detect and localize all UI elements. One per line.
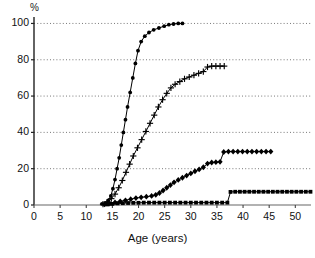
- series-series-1: [100, 22, 184, 206]
- data-point-square: [220, 201, 224, 205]
- data-point-circle: [111, 187, 115, 191]
- y-tick-label: 20: [0, 162, 29, 174]
- data-point-square: [105, 203, 109, 207]
- data-point-square: [210, 201, 214, 205]
- data-point-circle: [121, 130, 125, 134]
- data-point-circle: [143, 34, 147, 38]
- data-point-square: [178, 201, 182, 205]
- data-point-square: [184, 201, 188, 205]
- data-point-circle: [162, 24, 166, 28]
- x-tick-label: 10: [74, 210, 98, 222]
- data-point-diamond: [259, 149, 264, 155]
- data-point-circle: [119, 143, 123, 147]
- series-series-3: [102, 149, 273, 207]
- series-line: [102, 23, 182, 203]
- y-tick-label: 80: [0, 53, 29, 65]
- data-point-diamond: [133, 195, 138, 201]
- data-point-circle: [176, 22, 180, 26]
- data-point-square: [199, 201, 203, 205]
- data-point-diamond: [139, 194, 144, 200]
- data-point-square: [247, 190, 251, 194]
- data-point-square: [147, 201, 151, 205]
- data-point-square: [229, 190, 233, 194]
- data-point-square: [271, 190, 275, 194]
- x-tick-label: 40: [231, 210, 255, 222]
- data-point-square: [173, 201, 177, 205]
- data-point-square: [142, 201, 146, 205]
- data-point-circle: [172, 22, 176, 26]
- data-point-diamond: [231, 149, 236, 155]
- data-point-diamond: [217, 159, 222, 165]
- data-point-diamond: [254, 149, 259, 155]
- data-point-square: [243, 190, 247, 194]
- x-tick-label: 35: [205, 210, 229, 222]
- data-point-square: [238, 190, 242, 194]
- x-tick-label: 5: [48, 210, 72, 222]
- data-point-circle: [147, 31, 151, 35]
- data-point-circle: [131, 76, 135, 80]
- series-line: [105, 152, 271, 205]
- y-tick-label: 100: [0, 16, 29, 28]
- data-point-diamond: [245, 149, 250, 155]
- data-point-circle: [136, 49, 140, 53]
- data-point-diamond: [144, 194, 149, 200]
- data-point-diamond: [221, 149, 226, 155]
- x-tick-label: 50: [283, 210, 307, 222]
- data-point-square: [163, 201, 167, 205]
- data-point-square: [152, 201, 156, 205]
- data-point-square: [276, 190, 280, 194]
- data-point-square: [137, 201, 141, 205]
- data-point-square: [309, 190, 313, 194]
- data-point-square: [290, 190, 294, 194]
- data-point-square: [257, 190, 261, 194]
- data-point-square: [205, 201, 209, 205]
- data-point-square: [233, 190, 237, 194]
- data-point-circle: [152, 28, 156, 32]
- data-point-circle: [113, 178, 117, 182]
- series-series-2: [100, 63, 227, 207]
- x-tick-label: 0: [22, 210, 46, 222]
- data-point-square: [294, 190, 298, 194]
- data-point-square: [126, 201, 130, 205]
- x-tick-label: 15: [100, 210, 124, 222]
- data-point-square: [280, 190, 284, 194]
- data-point-square: [194, 201, 198, 205]
- data-point-diamond: [149, 193, 154, 199]
- data-point-square: [215, 201, 219, 205]
- data-point-square: [285, 190, 289, 194]
- x-axis-title: Age (years): [0, 232, 315, 244]
- data-point-circle: [181, 22, 185, 26]
- series-line: [103, 66, 224, 204]
- x-tick-label: 45: [257, 210, 281, 222]
- x-tick-label: 20: [127, 210, 151, 222]
- data-point-square: [266, 190, 270, 194]
- x-tick-label: 25: [153, 210, 177, 222]
- data-point-diamond: [268, 149, 273, 155]
- data-point-square: [252, 190, 256, 194]
- data-point-square: [262, 190, 266, 194]
- data-point-square: [225, 201, 229, 205]
- data-point-circle: [157, 26, 161, 30]
- data-point-square: [189, 201, 193, 205]
- y-tick-label: 40: [0, 125, 29, 137]
- data-point-square: [121, 201, 125, 205]
- data-point-square: [116, 201, 120, 205]
- data-point-diamond: [235, 149, 240, 155]
- data-point-circle: [128, 91, 132, 95]
- data-point-circle: [133, 61, 137, 65]
- data-point-circle: [124, 118, 128, 122]
- data-point-circle: [115, 167, 119, 171]
- cumulative-incidence-chart: % 020406080100 05101520253035404550 Age …: [0, 0, 315, 258]
- data-point-square: [168, 201, 172, 205]
- data-point-square: [131, 201, 135, 205]
- data-point-square: [304, 190, 308, 194]
- data-point-circle: [117, 156, 121, 160]
- data-point-diamond: [263, 149, 268, 155]
- data-point-diamond: [213, 159, 218, 165]
- data-point-circle: [139, 40, 143, 44]
- data-point-square: [158, 201, 162, 205]
- data-point-square: [110, 202, 114, 206]
- data-point-diamond: [226, 149, 231, 155]
- x-tick-label: 30: [179, 210, 203, 222]
- data-point-diamond: [240, 149, 245, 155]
